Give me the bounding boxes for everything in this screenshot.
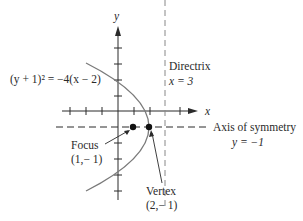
vertex-coords: (2,− 1) — [146, 199, 178, 212]
axis-of-symmetry-title: Axis of symmetry — [213, 121, 296, 134]
x-axis-arrow-icon — [188, 108, 198, 114]
focus-coords: (1,− 1) — [71, 153, 103, 166]
vertex-title: Vertex — [146, 185, 176, 197]
x-axis-label: x — [204, 105, 211, 117]
y-axis-arrow-icon — [115, 26, 121, 36]
x-axis — [62, 107, 198, 115]
equation-label: (y + 1)² = −4(x − 2) — [10, 73, 101, 86]
parabola-diagram: y x Directrix x = 3 Axis of symmetry y =… — [0, 0, 303, 221]
directrix-equation: x = 3 — [168, 75, 194, 87]
vertex-point — [146, 124, 152, 130]
axis-of-symmetry-equation: y = −1 — [231, 136, 264, 149]
vertex-pointer-line — [152, 133, 162, 183]
focus-point — [130, 124, 136, 130]
focus-pointer-line — [105, 131, 128, 144]
directrix-title: Directrix — [169, 60, 211, 72]
y-axis-label: y — [113, 10, 120, 23]
vertex-pointer-arrow-icon — [149, 130, 154, 137]
focus-title: Focus — [71, 139, 99, 151]
